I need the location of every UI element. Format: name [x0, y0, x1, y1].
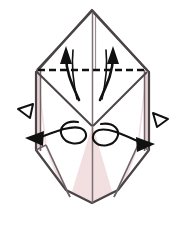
- pull-out-hollow-arrow-right: [153, 113, 168, 127]
- origami-diagram-figure: [0, 0, 187, 227]
- origami-diagram-svg: [0, 0, 187, 227]
- pull-out-hollow-arrow-left-head: [18, 104, 33, 118]
- pull-out-hollow-arrow-right-head: [153, 113, 168, 127]
- pull-out-hollow-arrow-left: [18, 104, 33, 118]
- spread-open-arrow-left-head: [25, 131, 44, 146]
